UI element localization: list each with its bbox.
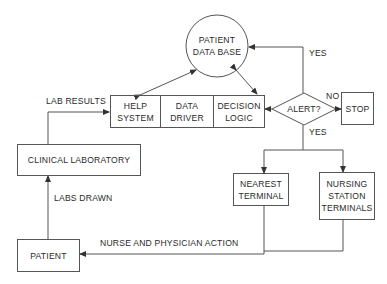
no-label: NO	[326, 91, 339, 101]
decision-logic-box: DECISION LOGIC	[213, 95, 265, 128]
nearest-terminal-box: NEAREST TERMINAL	[233, 173, 289, 206]
help-system-label: HELP SYSTEM	[117, 100, 154, 124]
help-system-box: HELP SYSTEM	[110, 95, 161, 128]
stop-box: STOP	[341, 92, 374, 125]
nearest-terminal-label: NEAREST TERMINAL	[238, 178, 283, 202]
labs-drawn-label: LABS DRAWN	[54, 193, 113, 203]
nursing-station-terminals-box: NURSING STATION TERMINALS	[319, 172, 375, 220]
clinical-laboratory-box: CLINICAL LABORATORY	[17, 144, 141, 176]
lab-results-arrow	[48, 112, 109, 144]
patient-label: PATIENT	[30, 250, 66, 262]
yes-bottom-label: YES	[309, 127, 327, 137]
decision-logic-label: DECISION LOGIC	[217, 100, 260, 124]
patient-box: PATIENT	[17, 239, 80, 272]
clinical-laboratory-label: CLINICAL LABORATORY	[28, 154, 130, 166]
yes-top-label: YES	[309, 48, 327, 58]
action-to-patient-arrow	[80, 252, 264, 254]
alert-yes-db-arrow	[249, 47, 303, 93]
alert-label: ALERT?	[287, 103, 321, 115]
lab-results-label: LAB RESULTS	[46, 96, 106, 106]
stop-label: STOP	[345, 103, 369, 115]
nurse-physician-action-label: NURSE AND PHYSICIAN ACTION	[100, 238, 238, 248]
data-driver-box: DATA DRIVER	[160, 95, 214, 128]
data-driver-label: DATA DRIVER	[170, 100, 204, 124]
nursing-station-terminals-label: NURSING STATION TERMINALS	[322, 178, 373, 214]
patient-database-label: PATIENT DATA BASE	[193, 34, 241, 58]
patient-database-node: PATIENT DATA BASE	[186, 15, 248, 77]
